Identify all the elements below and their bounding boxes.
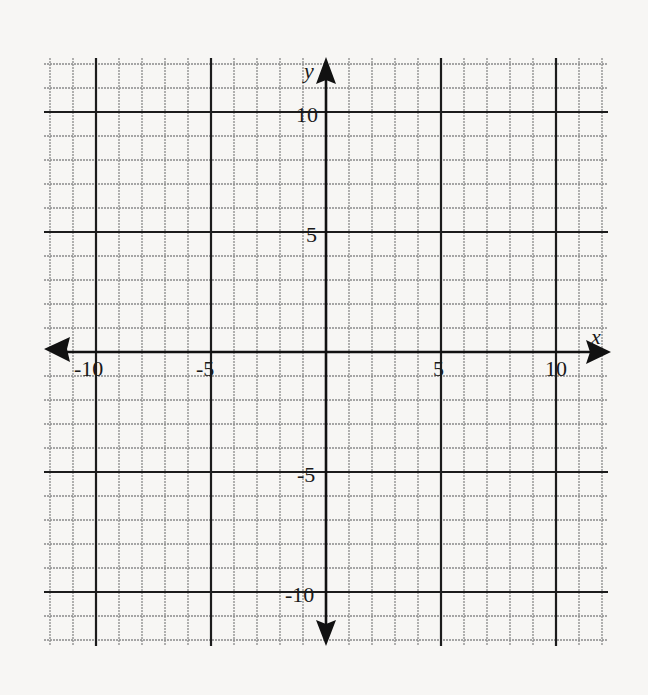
x-axis-label: x (590, 324, 601, 349)
coordinate-plane: x y -10 -5 5 10 10 5 -5 -10 (0, 0, 648, 695)
x-tick-label-neg10: -10 (74, 356, 103, 381)
axes (44, 57, 611, 646)
y-tick-label-10: 10 (296, 102, 318, 127)
tick-labels: x y -10 -5 5 10 10 5 -5 -10 (74, 58, 601, 607)
y-tick-label-neg5: -5 (297, 462, 315, 487)
y-tick-label-5: 5 (306, 222, 317, 247)
x-tick-label-5: 5 (433, 356, 444, 381)
x-axis-arrow-left-icon (44, 337, 70, 362)
y-tick-label-neg10: -10 (285, 582, 314, 607)
y-axis-label: y (302, 58, 314, 83)
y-axis-arrow-up-icon (316, 57, 336, 84)
x-tick-label-10: 10 (545, 356, 567, 381)
x-tick-label-neg5: -5 (196, 356, 214, 381)
